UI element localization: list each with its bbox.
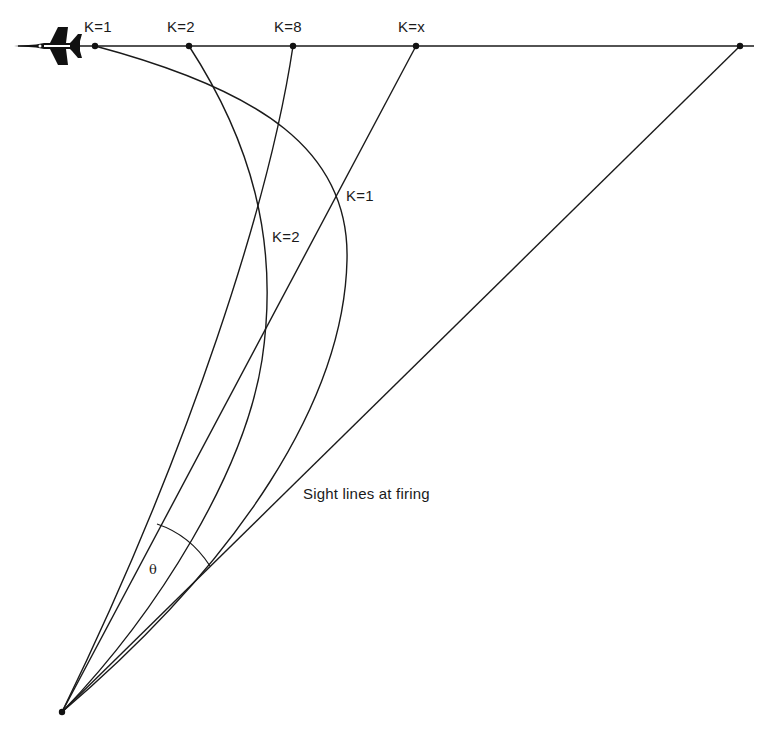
label-curve-k1: K=1 bbox=[346, 187, 374, 204]
point-k8 bbox=[290, 43, 296, 49]
point-kx bbox=[413, 43, 419, 49]
pursuit-diagram bbox=[0, 0, 772, 738]
sight-lines-caption: Sight lines at firing bbox=[303, 485, 430, 502]
sight-line-outer bbox=[62, 46, 740, 712]
point-k2 bbox=[186, 43, 192, 49]
angle-arc bbox=[157, 524, 210, 566]
origin-point bbox=[59, 709, 65, 715]
label-curve-k2: K=2 bbox=[272, 228, 300, 245]
point-end bbox=[737, 43, 743, 49]
label-k8-top: K=8 bbox=[274, 18, 302, 35]
sight-line-k-x bbox=[62, 46, 416, 712]
trajectory-k1 bbox=[62, 46, 347, 712]
label-k2-top: K=2 bbox=[167, 18, 195, 35]
point-k1 bbox=[92, 43, 98, 49]
label-k1-top: K=1 bbox=[84, 18, 112, 35]
jet-aircraft-icon bbox=[14, 27, 82, 65]
label-kx-top: K=x bbox=[398, 18, 425, 35]
angle-theta-label: θ bbox=[149, 562, 157, 577]
